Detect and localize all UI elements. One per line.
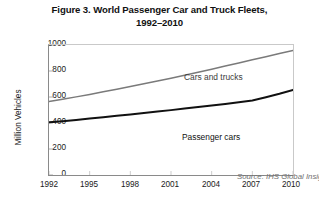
plot-area: Cars and trucks Passenger cars Source: I… [48, 44, 294, 176]
series-line-cars-and-trucks [49, 50, 293, 101]
x-tick-label-2001: 2001 [153, 180, 187, 189]
y-axis-title: Million Vehicles [14, 63, 23, 173]
x-tick-label-2010: 2010 [274, 180, 308, 189]
x-tick-label-2007: 2007 [234, 180, 268, 189]
x-tick-label-1992: 1992 [32, 180, 66, 189]
figure-container: Figure 3. World Passenger Car and Truck … [0, 0, 319, 224]
x-tick-label-1995: 1995 [72, 180, 106, 189]
chart-region: Million Vehicles 1000 800 600 400 200 0 … [0, 38, 319, 224]
figure-title-line-1: Figure 3. World Passenger Car and Truck … [0, 4, 319, 17]
series-plot [49, 45, 293, 175]
x-tick-label-1998: 1998 [113, 180, 147, 189]
source-attribution: Source: IHS Global Insight [237, 172, 319, 181]
y-axis-tick-marks [49, 45, 53, 175]
series-label-cars-and-trucks: Cars and trucks [184, 72, 243, 82]
figure-title: Figure 3. World Passenger Car and Truck … [0, 4, 319, 29]
x-tick-label-2004: 2004 [194, 180, 228, 189]
figure-title-line-2: 1992–2010 [0, 17, 319, 30]
series-label-passenger-cars: Passenger cars [182, 132, 240, 142]
